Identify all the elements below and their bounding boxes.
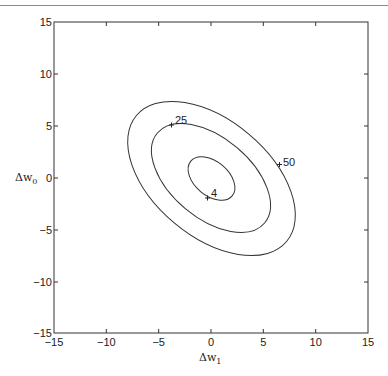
contour-label-4: 4 (211, 187, 217, 199)
x-tick-label: −5 (152, 336, 165, 348)
y-axis-label: Δw0 (15, 171, 37, 186)
x-tick-label: 5 (260, 336, 266, 348)
contour-label-25: 25 (175, 114, 187, 126)
x-tick-labels: −15 −10 −5 0 5 10 15 (45, 336, 374, 348)
contour-4 (180, 148, 243, 209)
x-axis-label: Δw1 (199, 351, 221, 366)
y-tick-label: −10 (33, 276, 52, 288)
contour-label-50: 50 (283, 156, 295, 168)
plot-frame (54, 22, 368, 333)
x-tick-label: 15 (362, 336, 374, 348)
plus-marker-25 (169, 123, 174, 128)
y-tick-label: 0 (46, 172, 52, 184)
y-axis-label-main: Δw (15, 171, 33, 184)
x-tick-label: −10 (97, 336, 116, 348)
y-tick-label: −5 (39, 224, 52, 236)
contour-chart: −15 −10 −5 0 5 10 15 15 10 5 0 −5 −10 −1… (0, 0, 388, 376)
y-tick-label: 15 (40, 16, 52, 28)
y-ticks (54, 74, 368, 282)
y-tick-label: 5 (46, 120, 52, 132)
contours (99, 71, 324, 286)
x-tick-label: 10 (310, 336, 322, 348)
x-tick-label: 0 (208, 336, 214, 348)
y-tick-label: 10 (40, 68, 52, 80)
x-axis-label-sub: 1 (216, 357, 221, 366)
y-tick-label: −15 (33, 327, 52, 339)
contour-label-markers (169, 123, 282, 201)
contour-50 (99, 71, 324, 286)
x-axis-label-main: Δw (199, 351, 217, 364)
plus-marker-4 (205, 196, 210, 201)
contour-25 (132, 102, 291, 253)
y-axis-label-sub: 0 (32, 177, 37, 186)
